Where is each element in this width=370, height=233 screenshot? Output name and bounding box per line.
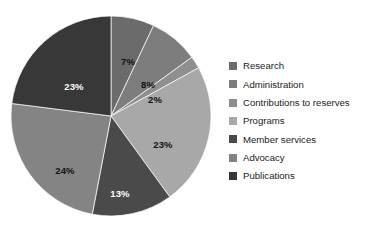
legend-item[interactable]: Contributions to reserves <box>229 94 369 112</box>
legend-item[interactable]: Programs <box>229 112 369 130</box>
chart-legend: ResearchAdministrationContributions to r… <box>229 57 369 185</box>
pie-slice-data-label: 13% <box>110 188 130 199</box>
legend-item-label: Advocacy <box>243 153 285 163</box>
legend-item[interactable]: Publications <box>229 167 369 185</box>
pie-slice-data-label: 2% <box>148 94 162 105</box>
legend-swatch-icon <box>229 117 237 125</box>
legend-swatch-icon <box>229 62 237 70</box>
pie-chart-svg: 7%8%2%23%13%24%23% <box>8 12 214 220</box>
pie-slice[interactable] <box>12 16 111 116</box>
pie-slice-data-label: 24% <box>55 165 75 176</box>
pie-slice-data-label: 8% <box>141 79 155 90</box>
legend-item-label: Research <box>243 61 284 71</box>
legend-item-label: Publications <box>243 171 295 181</box>
legend-swatch-icon <box>229 80 237 88</box>
legend-item[interactable]: Administration <box>229 75 369 93</box>
legend-swatch-icon <box>229 135 237 143</box>
legend-item-label: Administration <box>243 80 304 90</box>
pie-chart-plot-area: 7%8%2%23%13%24%23% <box>8 12 214 220</box>
pie-slice-data-label: 7% <box>121 56 135 67</box>
legend-item[interactable]: Advocacy <box>229 148 369 166</box>
legend-item[interactable]: Research <box>229 57 369 75</box>
legend-swatch-icon <box>229 154 237 162</box>
legend-item-label: Member services <box>243 135 316 145</box>
legend-item[interactable]: Member services <box>229 130 369 148</box>
legend-item-label: Programs <box>243 116 285 126</box>
pie-slice-data-label: 23% <box>64 81 84 92</box>
legend-swatch-icon <box>229 172 237 180</box>
pie-slice-group <box>11 16 211 216</box>
legend-item-label: Contributions to reserves <box>243 98 350 108</box>
pie-chart-figure: 7%8%2%23%13%24%23% ResearchAdministratio… <box>0 0 370 233</box>
legend-swatch-icon <box>229 99 237 107</box>
pie-slice-data-label: 23% <box>153 139 173 150</box>
